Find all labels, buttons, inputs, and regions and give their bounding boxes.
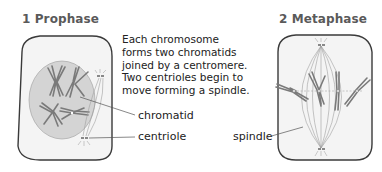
prophase-cell <box>18 36 135 160</box>
mitosis-diagram <box>0 0 382 172</box>
metaphase-cell <box>268 35 372 160</box>
